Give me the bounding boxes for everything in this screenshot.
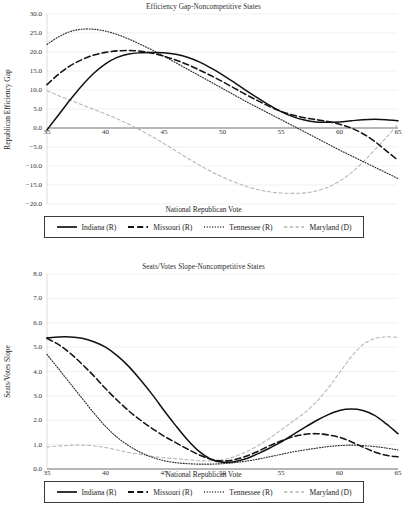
- chart2-plot-area: Seats/Votes Slope 8.07.06.05.04.03.02.01…: [0, 274, 407, 469]
- series-line: [47, 338, 398, 461]
- x-tick-label: 50: [219, 128, 226, 136]
- legend-item[interactable]: Maryland (D): [283, 223, 351, 232]
- chart1-title: Efficiency Gap-Noncompetitive States: [0, 0, 407, 14]
- y-tick-label: −15.0: [26, 181, 42, 189]
- legend-label: Missouri (R): [153, 488, 192, 497]
- dashed-line-icon: [127, 488, 149, 496]
- legend-item[interactable]: Missouri (R): [127, 488, 192, 497]
- y-tick-label: 0.0: [33, 124, 42, 132]
- y-tick-label: 0.0: [33, 465, 42, 473]
- x-tick-label: 60: [336, 469, 343, 477]
- y-tick-label: −20.0: [26, 200, 42, 208]
- y-tick-label: 5.0: [33, 343, 42, 351]
- chart1-y-ticks: 30.025.020.015.010.05.00.0−5.0−10.0−15.0…: [14, 14, 44, 204]
- y-tick-label: 2.0: [33, 416, 42, 424]
- chart2-canvas: [47, 274, 398, 469]
- y-tick-label: 25.0: [30, 29, 42, 37]
- dotted-line-icon: [203, 488, 225, 496]
- x-tick-label: 45: [161, 128, 168, 136]
- legend-label: Missouri (R): [153, 223, 192, 232]
- legend-label: Maryland (D): [309, 223, 351, 232]
- chart1-plot-area: Republican Efficiency Gap 30.025.020.015…: [0, 14, 407, 204]
- legend-item[interactable]: Indiana (R): [56, 223, 117, 232]
- y-tick-label: −10.0: [26, 162, 42, 170]
- dotted-line-icon: [203, 223, 225, 231]
- y-tick-label: 10.0: [30, 86, 42, 94]
- x-tick-label: 40: [102, 128, 109, 136]
- legend-label: Indiana (R): [82, 488, 117, 497]
- chart1-x-ticks: 35404550556065: [47, 128, 398, 140]
- chart1-canvas: [47, 14, 398, 204]
- x-tick-label: 55: [278, 469, 285, 477]
- y-tick-label: 6.0: [33, 319, 42, 327]
- legend-label: Maryland (D): [309, 488, 351, 497]
- legend-item[interactable]: Maryland (D): [283, 488, 351, 497]
- legend-item[interactable]: Indiana (R): [56, 488, 117, 497]
- x-tick-label: 40: [102, 469, 109, 477]
- legend-item[interactable]: Tennessee (R): [203, 488, 272, 497]
- solid-line-icon: [56, 488, 78, 496]
- chart2-y-axis-label: Seats/Votes Slope: [0, 274, 14, 469]
- x-tick-label: 35: [44, 469, 51, 477]
- chart1-y-axis-label: Republican Efficiency Gap: [0, 14, 14, 204]
- series-line: [47, 29, 398, 179]
- chart1-legend: Indiana (R)Missouri (R)Tennessee (R)Mary…: [44, 216, 364, 238]
- legend-item[interactable]: Missouri (R): [127, 223, 192, 232]
- chart-page: Efficiency Gap-Noncompetitive States Rep…: [0, 0, 407, 519]
- solid-line-icon: [56, 223, 78, 231]
- series-line: [47, 337, 398, 461]
- x-tick-label: 65: [395, 469, 402, 477]
- chart2-title: Seats/Votes Slope-Noncompetitive States: [0, 260, 407, 274]
- legend-label: Indiana (R): [82, 223, 117, 232]
- y-tick-label: 20.0: [30, 48, 42, 56]
- y-tick-label: 3.0: [33, 392, 42, 400]
- y-tick-label: −5.0: [29, 143, 42, 151]
- y-tick-label: 8.0: [33, 270, 42, 278]
- x-tick-label: 35: [44, 128, 51, 136]
- series-line: [47, 91, 398, 194]
- chart-efficiency-gap: Efficiency Gap-Noncompetitive States Rep…: [0, 0, 407, 260]
- x-tick-label: 45: [161, 469, 168, 477]
- series-line: [47, 50, 398, 160]
- chart2-y-ticks: 8.07.06.05.04.03.02.01.00.0: [14, 274, 44, 469]
- y-tick-label: 4.0: [33, 368, 42, 376]
- y-tick-label: 7.0: [33, 294, 42, 302]
- chart1-x-axis-label: National Republican Vote: [0, 204, 407, 216]
- series-line: [47, 52, 398, 130]
- chart-seats-votes-slope: Seats/Votes Slope-Noncompetitive States …: [0, 260, 407, 519]
- y-tick-label: 30.0: [30, 10, 42, 18]
- series-line: [47, 337, 398, 463]
- x-tick-label: 55: [278, 128, 285, 136]
- y-tick-label: 15.0: [30, 67, 42, 75]
- chart2-legend: Indiana (R)Missouri (R)Tennessee (R)Mary…: [44, 481, 364, 503]
- y-tick-label: 5.0: [33, 105, 42, 113]
- dashed-line-icon: [127, 223, 149, 231]
- light-dashed-line-icon: [283, 223, 305, 231]
- x-tick-label: 50: [219, 469, 226, 477]
- legend-item[interactable]: Tennessee (R): [203, 223, 272, 232]
- chart2-x-ticks: 35404550556065: [47, 469, 398, 481]
- x-tick-label: 60: [336, 128, 343, 136]
- x-tick-label: 65: [395, 128, 402, 136]
- legend-label: Tennessee (R): [229, 223, 272, 232]
- y-tick-label: 1.0: [33, 441, 42, 449]
- light-dashed-line-icon: [283, 488, 305, 496]
- legend-label: Tennessee (R): [229, 488, 272, 497]
